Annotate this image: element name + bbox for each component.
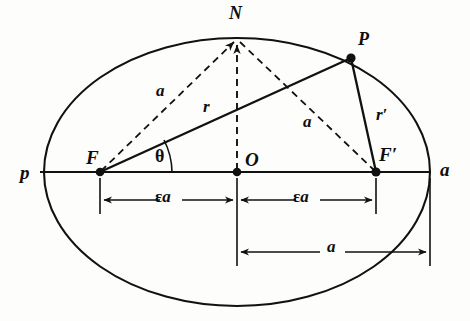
point-label-a-vertex: a <box>440 160 450 179</box>
segment-label-r-prime: r′ <box>376 106 387 123</box>
point-label-P: P <box>358 30 369 48</box>
point-label-p: p <box>20 163 30 182</box>
a-glyph-left: a <box>162 187 171 206</box>
point-dot-F <box>96 168 105 177</box>
segment-label-a-NFprime: a <box>303 113 312 130</box>
angle-label-theta: θ <box>155 147 164 165</box>
segment-FP-radius-r <box>100 58 351 172</box>
dimension-label-a-bottom: a <box>327 238 336 255</box>
a-glyph-right: a <box>300 187 309 206</box>
dimension-label-epsilon-a-left: εa <box>155 188 171 205</box>
diagram-canvas <box>0 0 470 321</box>
point-label-F: F <box>86 148 99 167</box>
segment-label-a-FN: a <box>156 82 165 99</box>
segment-NFp-dashed <box>240 42 375 171</box>
point-dot-O <box>233 168 242 177</box>
angle-theta-arc <box>164 140 172 172</box>
segment-FN-dashed <box>101 42 234 171</box>
point-dot-P <box>346 53 355 62</box>
point-dot-Fp <box>371 167 380 176</box>
point-label-F-prime: F′ <box>379 145 397 164</box>
point-label-O: O <box>245 150 259 169</box>
dimension-label-epsilon-a-right: εa <box>293 188 309 205</box>
ellipse-diagram-figure: p F O F′ a N P r r′ a a θ εa εa a <box>0 0 470 321</box>
point-label-N: N <box>229 4 242 22</box>
segment-PFp-radius-rprime <box>351 58 376 172</box>
segment-label-r: r <box>203 98 210 115</box>
